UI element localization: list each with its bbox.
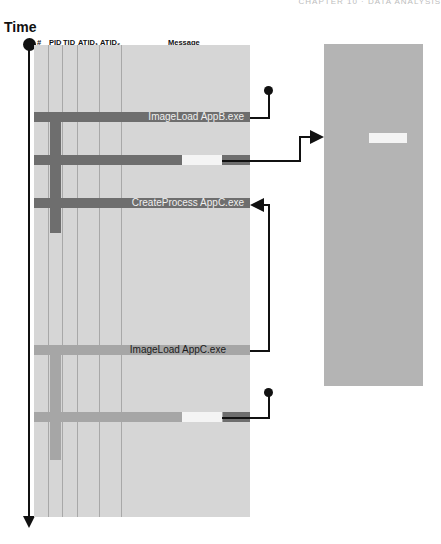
connector-line: [222, 417, 270, 419]
detail-panel-highlight: [369, 133, 407, 143]
event-row[interactable]: [34, 155, 250, 165]
event-row[interactable]: CreateProcess AppC.exe: [34, 198, 250, 208]
connector-line: [250, 117, 269, 119]
detail-panel: [324, 44, 423, 386]
event-message: ImageLoad AppC.exe: [26, 345, 226, 355]
connector-line: [250, 350, 270, 352]
event-highlight: [182, 412, 222, 422]
pid-column-highlight-appc: [50, 345, 61, 460]
connector-line: [222, 160, 301, 162]
event-row[interactable]: ImageLoad AppB.exe: [34, 112, 250, 122]
event-message: CreateProcess AppC.exe: [44, 198, 244, 208]
endpoint-dot-icon: [264, 86, 273, 95]
arrow-left-icon: [250, 198, 264, 212]
connector-line: [268, 204, 270, 352]
connector-line: [299, 136, 301, 162]
event-highlight: [182, 155, 222, 165]
arrow-right-icon: [310, 130, 324, 144]
event-row[interactable]: ImageLoad AppC.exe: [34, 345, 250, 355]
endpoint-dot-icon: [264, 388, 273, 397]
time-arrow-down-icon: [23, 516, 35, 528]
pid-column-highlight-appb: [50, 112, 61, 233]
event-row[interactable]: [34, 412, 250, 422]
time-axis-line: [28, 44, 30, 520]
event-message: ImageLoad AppB.exe: [44, 112, 244, 122]
time-axis-label: Time: [4, 19, 36, 35]
page-header: CHAPTER 10 · DATA ANALYSIS: [299, 0, 441, 6]
